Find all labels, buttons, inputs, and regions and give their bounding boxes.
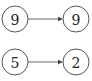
node-label: 9 bbox=[72, 12, 81, 28]
node-n2: 9 bbox=[63, 6, 89, 32]
arrowhead-icon bbox=[58, 60, 63, 64]
edge-n1-n2 bbox=[28, 17, 63, 21]
node-n1: 9 bbox=[2, 6, 28, 32]
node-n3: 5 bbox=[2, 49, 28, 75]
node-label: 9 bbox=[11, 12, 20, 28]
node-label: 5 bbox=[11, 55, 20, 71]
arrowhead-icon bbox=[58, 17, 63, 21]
edge-n3-n4 bbox=[28, 60, 63, 64]
node-label: 2 bbox=[72, 55, 81, 71]
node-n4: 2 bbox=[63, 49, 89, 75]
diagram-canvas: 9 9 5 2 bbox=[0, 0, 92, 81]
